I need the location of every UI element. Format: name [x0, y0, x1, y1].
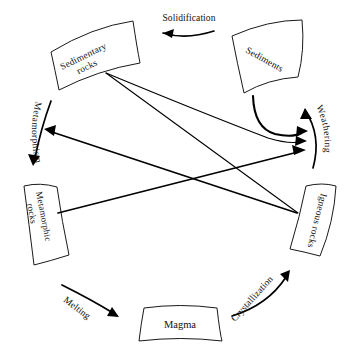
node-igneous-rocks[interactable]: Igneous rocks [290, 184, 336, 256]
process-weathering[interactable]: Weathering [300, 104, 333, 168]
node-metamorphic-rocks[interactable]: Metamorphic rocks [23, 184, 69, 265]
weathering-arrowhead [300, 108, 312, 119]
node-sediments[interactable]: Sediments [232, 20, 303, 93]
crystallization-arrowhead [280, 270, 290, 282]
melting-arrowhead [107, 307, 119, 317]
process-label-crystallization: Crystallization [229, 274, 275, 323]
connection-sediments-weathering [253, 96, 308, 137]
solidification-arrowhead [163, 29, 174, 38]
connection-igneous-metamorphism [44, 125, 297, 213]
node-magma[interactable]: Magma [139, 306, 222, 342]
process-melting[interactable]: Melting [62, 285, 119, 321]
sediments-weathering-arrowhead [296, 126, 308, 137]
node-label-magma: Magma [164, 319, 196, 330]
rock-cycle-diagram: Sedimentary rocks Sediments Igneous rock… [0, 0, 361, 359]
rock-cycle-canvas: Sedimentary rocks Sediments Igneous rock… [0, 0, 361, 359]
process-metamorphism[interactable]: Metamorphism [28, 101, 51, 166]
process-solidification[interactable]: Solidification [162, 13, 215, 38]
metamorphic-weathering-arrowhead [292, 145, 306, 155]
connection-sedimentary-igneous [106, 73, 298, 213]
node-sedimentary-rocks[interactable]: Sedimentary rocks [51, 21, 140, 90]
process-crystallization[interactable]: Crystallization [229, 270, 290, 323]
process-label-solidification: Solidification [162, 13, 215, 23]
process-label-weathering: Weathering [314, 104, 332, 154]
sedimentary-weathering-arrowhead [295, 136, 307, 146]
igneous-metamorphism-arrowhead [44, 125, 56, 136]
